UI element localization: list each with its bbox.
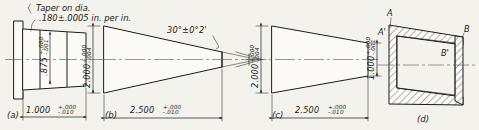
panel-a-length-tol-lower: -.010	[58, 109, 74, 115]
panel-b-angle-text: 30°±0°2'	[167, 25, 207, 35]
panel-d-label-b: B	[464, 24, 470, 34]
panel-b-angle-leader	[213, 36, 219, 49]
panel-b-dia-tol-lower: -.004	[86, 47, 92, 63]
panel-b-label: (b)	[105, 110, 117, 120]
panel-b-length-value: 2.500	[130, 105, 154, 115]
taper-note-line1: Taper on dia.	[36, 3, 90, 13]
panel-a-flange	[14, 21, 23, 99]
panel-d-label-a: A	[386, 8, 393, 18]
panel-b-geometry	[96, 26, 262, 93]
panel-d-label: (d)	[417, 114, 429, 124]
panel-d-hatched-wall	[389, 25, 463, 105]
taper-note-leader	[28, 4, 35, 31]
panel-d-label-a-prime: A'	[377, 27, 386, 37]
taper-note-line2: .180±.0005 in. per in.	[39, 13, 131, 23]
panel-c-label: (c)	[272, 110, 283, 120]
panel-a-label: (a)	[7, 110, 19, 120]
panel-a-dia-tol-lower: -.001	[43, 39, 49, 55]
panel-b-dia-value: 2.000	[82, 64, 92, 88]
panel-c-large-dia-text: 2.000 +.000 -.004	[249, 44, 260, 88]
panel-c-large-dia-value: 2.000	[250, 64, 260, 88]
panel-d-label-b-prime: B'	[441, 48, 449, 58]
panel-c-small-dia-tol-lower: -.001	[370, 39, 376, 55]
panel-c-small-dia-text: 1.000 +.000 -.001	[365, 36, 376, 80]
panel-d-bore-outline	[397, 36, 455, 95]
panel-a-length-value: 1.000	[26, 105, 50, 115]
panel-d-geometry	[378, 18, 476, 105]
panel-b-length-tol-lower: -.010	[163, 109, 179, 115]
drawing-canvas: Taper on dia. .180±.0005 in. per in. .87…	[0, 0, 479, 130]
panel-c-large-dia-tol-lower: -.004	[254, 47, 260, 63]
panel-c-small-dia-value: 1.000	[366, 56, 376, 80]
panel-b-vertical-dim-text: 2.000 +.000 -.004	[81, 44, 92, 88]
panel-a-dia-value: .875	[39, 57, 49, 76]
panel-d-right-wall	[455, 36, 463, 105]
panel-c-length-tol-lower: -.010	[328, 109, 344, 115]
technical-drawing-sheet: Taper on dia. .180±.0005 in. per in. .87…	[0, 0, 479, 130]
panel-c-length-value: 2.500	[295, 105, 319, 115]
